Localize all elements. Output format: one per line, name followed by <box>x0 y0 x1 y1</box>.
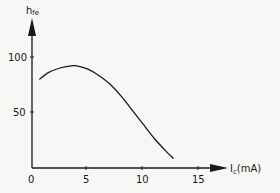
x-tick-label-10: 10 <box>136 174 149 185</box>
x-tick-label-0: 0 <box>28 174 34 185</box>
y-axis-label-sub: fe <box>32 9 39 17</box>
hfe-curve <box>40 65 173 158</box>
x-tick-label-15: 15 <box>192 174 205 185</box>
y-tick-label-100: 100 <box>8 52 27 63</box>
x-axis-arrow-icon <box>210 164 228 172</box>
y-tick-label-50: 50 <box>13 107 26 118</box>
y-axis-label: hfe <box>26 5 39 17</box>
x-axis-label-unit: (mA) <box>237 163 261 174</box>
x-axis-label: Ic(mA) <box>230 163 261 176</box>
x-tick-label-5: 5 <box>83 174 89 185</box>
y-axis-arrow-icon <box>28 18 36 36</box>
chart: 100 50 0 5 10 15 hfe Ic(mA) <box>0 0 280 193</box>
